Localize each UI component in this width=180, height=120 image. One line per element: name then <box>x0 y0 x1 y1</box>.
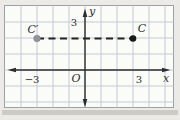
scan-shadow-bottom <box>2 110 178 115</box>
y-axis-label: y <box>88 5 96 18</box>
y-axis-tick-3: 3 <box>71 17 77 28</box>
point-c <box>130 35 137 42</box>
x-axis-label: x <box>163 72 170 85</box>
point-c-prime <box>34 35 41 42</box>
x-axis-tick-3: 3 <box>136 74 142 85</box>
coordinate-plane-svg: y x O 3 −3 3 C′ C <box>0 0 180 120</box>
point-c-label: C <box>138 22 147 35</box>
x-axis-tick-neg3: −3 <box>25 74 40 85</box>
point-c-prime-label: C′ <box>28 23 39 36</box>
plot-area-border <box>5 6 174 108</box>
coordinate-plane-figure: y x O 3 −3 3 C′ C <box>0 0 180 120</box>
origin-label: O <box>71 72 80 85</box>
